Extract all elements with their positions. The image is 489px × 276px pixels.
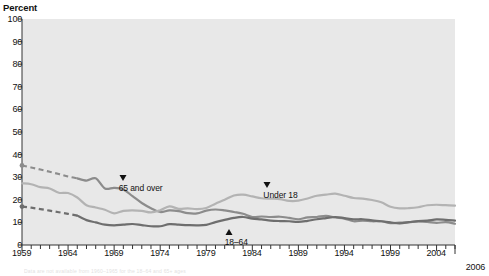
down-triangle-icon: [263, 181, 271, 189]
series-annotation-label: 65 and over: [119, 183, 163, 193]
poverty-rate-chart: Percent 0102030405060708090100 195919641…: [0, 0, 489, 276]
up-triangle-icon: [225, 228, 233, 236]
series-annotation-2: Under 18: [263, 181, 297, 200]
down-triangle-icon: [119, 174, 127, 182]
series-annotation-1: 65 and over: [119, 174, 163, 193]
series-annotation-3: 18–64: [225, 228, 248, 247]
series-annotation-label: Under 18: [263, 190, 297, 200]
series-annotation-label: 18–64: [225, 236, 248, 246]
chart-footnote: Data are not available from 1960–1965 fo…: [24, 268, 186, 274]
